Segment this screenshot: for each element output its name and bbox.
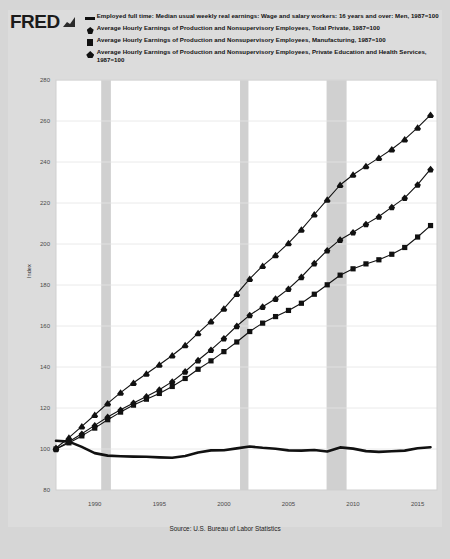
y-axis-tick: 120 [40, 405, 51, 411]
x-axis-tick: 2000 [217, 501, 231, 507]
legend-triangle-icon [84, 49, 97, 60]
legend-item-label: Employed full time: Median usual weekly … [97, 12, 439, 20]
y-axis-tick: 220 [40, 200, 51, 206]
fred-chart-page: FRED Employed full time: Median usual we… [0, 0, 450, 559]
legend-diamond-icon [84, 25, 97, 36]
chart-header: FRED Employed full time: Median usual we… [8, 10, 442, 72]
legend-item-median-real-earnings[interactable]: Employed full time: Median usual weekly … [84, 12, 442, 24]
legend-item-label: Average Hourly Earnings of Production an… [97, 24, 380, 32]
legend-item-label: Average Hourly Earnings of Production an… [97, 48, 442, 63]
legend-item-label: Average Hourly Earnings of Production an… [97, 36, 386, 44]
y-axis-tick: 180 [40, 282, 51, 288]
x-axis-tick: 2010 [346, 501, 360, 507]
y-axis-tick: 80 [43, 487, 50, 493]
fred-chart-icon [62, 16, 76, 28]
legend-line-icon [84, 13, 97, 24]
x-axis-tick: 1995 [153, 501, 167, 507]
legend-item-manufacturing[interactable]: Average Hourly Earnings of Production an… [84, 36, 442, 48]
y-axis-tick: 260 [40, 118, 51, 124]
x-axis-tick: 2015 [411, 501, 425, 507]
x-axis-tick: 1990 [88, 501, 102, 507]
legend-item-total-private[interactable]: Average Hourly Earnings of Production an… [84, 24, 442, 36]
legend-item-education-health[interactable]: Average Hourly Earnings of Production an… [84, 48, 442, 63]
chart-legend: Employed full time: Median usual weekly … [80, 10, 442, 63]
y-axis-label: Index [26, 264, 32, 278]
y-axis-tick: 140 [40, 364, 51, 370]
chart-source: Source: U.S. Bureau of Labor Statistics [0, 525, 450, 532]
y-axis-tick: 160 [40, 323, 51, 329]
fred-logo[interactable]: FRED [8, 10, 80, 31]
y-axis-tick: 280 [40, 77, 51, 83]
chart-plot-area: 8010012014016018020022024026028019901995… [8, 72, 442, 527]
x-axis-tick: 2005 [282, 501, 296, 507]
legend-square-icon [84, 37, 97, 48]
y-axis-tick: 100 [40, 446, 51, 452]
line-chart[interactable]: 8010012014016018020022024026028019901995… [8, 72, 442, 527]
y-axis-tick: 200 [40, 241, 51, 247]
fred-wordmark: FRED [10, 12, 60, 31]
y-axis-tick: 240 [40, 159, 51, 165]
